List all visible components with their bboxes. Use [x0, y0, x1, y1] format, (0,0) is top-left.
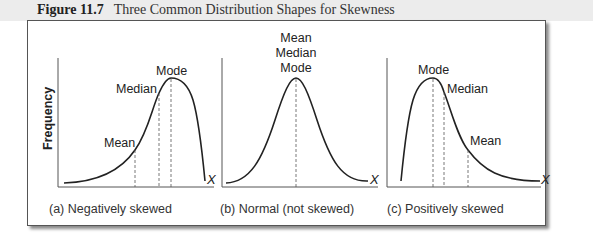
y-axis-label: Frequency [41, 87, 55, 150]
x-axis-symbol: X [540, 172, 551, 187]
panel-caption: (c) Positively skewed [387, 202, 504, 216]
median-label: Median [116, 82, 157, 96]
mean-label: Mean [104, 136, 135, 150]
distribution-curve [226, 78, 368, 183]
panel-negatively-skewed: Mean Median Mode X (a) Negatively skewed [49, 58, 217, 216]
mode-label: Mode [418, 63, 449, 77]
median-label: Median [447, 82, 488, 96]
panel-positively-skewed: Mode Median Mean X (c) Positively skewed [387, 58, 551, 216]
panel-caption: (b) Normal (not skewed) [220, 202, 354, 216]
mode-label: Mode [280, 61, 311, 75]
panel-normal: Mean Median Mode X (b) Normal (not skewe… [220, 31, 380, 216]
mode-label: Mode [156, 64, 187, 78]
median-label: Median [276, 46, 317, 60]
panel-caption: (a) Negatively skewed [49, 202, 172, 216]
x-axis-symbol: X [206, 172, 217, 187]
mean-label: Mean [470, 134, 501, 148]
x-axis-symbol: X [369, 172, 380, 187]
mean-label: Mean [280, 31, 311, 45]
skewness-figure: Frequency Mean Median Mode X (a) Negativ… [0, 0, 593, 237]
